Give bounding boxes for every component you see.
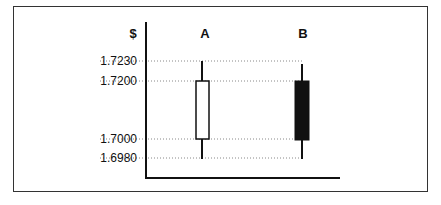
category-label-b: B [298,26,307,41]
candle-b-body [295,81,309,140]
candlestick-chart: $ A B 1.7230 1.7200 1.7000 1.6980 [0,0,441,205]
candle-a [196,61,209,159]
y-tick-1.7000: 1.7000 [100,132,137,146]
y-tick-1.6980: 1.6980 [100,151,137,165]
candle-a-body [196,81,209,139]
category-label-a: A [200,26,210,41]
candle-b [295,64,309,159]
y-axis-label: $ [129,26,137,41]
y-tick-1.7230: 1.7230 [100,54,137,68]
y-tick-1.7200: 1.7200 [100,74,137,88]
